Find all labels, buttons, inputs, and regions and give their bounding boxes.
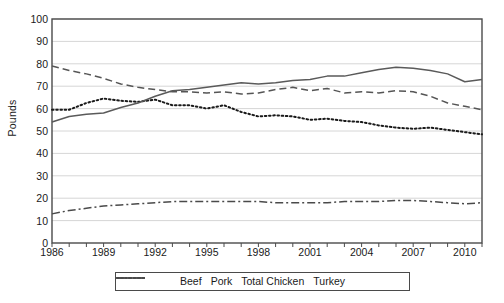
series-line-beef	[52, 66, 482, 110]
series-line-total-chicken	[52, 67, 482, 122]
x-axis-tick-label: 2001	[290, 246, 330, 258]
line-chart: Pounds 0102030405060708090100 1986198919…	[0, 0, 504, 303]
x-axis-tick-label: 1989	[84, 246, 124, 258]
legend-item-turkey[interactable]: Turkey	[313, 276, 345, 287]
x-axis-tick-label: 1992	[135, 246, 175, 258]
x-axis-tick-label: 2004	[342, 246, 382, 258]
legend-item-total-chicken[interactable]: Total Chicken	[241, 276, 304, 287]
chart-legend: BeefPorkTotal ChickenTurkey	[115, 272, 410, 291]
legend-label: Total Chicken	[241, 276, 304, 287]
legend-label: Beef	[180, 276, 202, 287]
series-line-turkey	[52, 200, 482, 213]
legend-swatch-dashdot-icon	[116, 273, 146, 282]
legend-item-beef[interactable]: Beef	[180, 276, 202, 287]
x-axis-tick-label: 1998	[238, 246, 278, 258]
x-axis-tick-label: 1986	[32, 246, 72, 258]
x-axis-tick-label: 2010	[445, 246, 485, 258]
legend-item-pork[interactable]: Pork	[211, 276, 233, 287]
x-axis-tick-label: 1995	[187, 246, 227, 258]
series-line-pork	[52, 99, 482, 135]
x-axis-tick-label: 2007	[393, 246, 433, 258]
legend-label: Pork	[211, 276, 233, 287]
legend-label: Turkey	[313, 276, 345, 287]
